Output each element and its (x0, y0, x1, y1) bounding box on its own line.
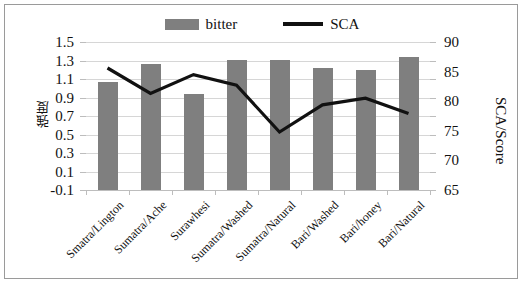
legend-item-bitter: bitter (165, 17, 238, 32)
y-axis-right-title: SCA/Score (492, 97, 509, 165)
x-axis-tickmarks (86, 190, 430, 191)
y-axis-right-tick-label: 65 (444, 183, 459, 198)
y-axis-left-tick-label: 0.3 (55, 146, 74, 161)
legend-label-bitter: bitter (206, 17, 238, 32)
y-axis-right-tickmark (430, 61, 436, 62)
y-axis-left-tick-label: -0.1 (50, 183, 74, 198)
chart-frame: bitter SCA 強度 SCA/Score 1.51.31.10.90.70… (4, 4, 518, 279)
y-axis-left-title: 強度 (33, 100, 52, 128)
y-axis-right-tick-label: 80 (444, 94, 459, 109)
y-axis-right-tickmark (430, 135, 436, 136)
chart-legend: bitter SCA (5, 13, 519, 35)
y-axis-left-tick-label: 0.7 (55, 109, 74, 124)
y-axis-left-tick-label: 0.9 (55, 90, 74, 105)
legend-item-sca: SCA (283, 17, 359, 32)
line-series-sca (86, 42, 430, 190)
y-axis-right-tick-label: 75 (444, 123, 459, 138)
y-axis-left-tick-label: 0.5 (55, 127, 74, 142)
y-axis-right-tick-label: 90 (444, 35, 459, 50)
y-axis-right-tick-label: 85 (444, 64, 459, 79)
plot-area (86, 42, 430, 190)
y-axis-right-tickmark (430, 42, 436, 43)
y-axis-left-tick-label: 1.5 (55, 35, 74, 50)
y-axis-right-tickmark (430, 172, 436, 173)
y-axis-left-tick-label: 1.3 (55, 53, 74, 68)
x-axis-tickmark (430, 190, 431, 195)
y-axis-left-tick-label: 0.1 (55, 164, 74, 179)
y-axis-right-tick-label: 70 (444, 153, 459, 168)
x-axis-label: Smatra/Lington (35, 199, 126, 287)
x-axis-line (86, 190, 430, 191)
y-axis-right-tickmark (430, 153, 436, 154)
legend-bar-swatch-icon (165, 19, 199, 30)
y-axis-right-tickmark (430, 79, 436, 80)
y-axis-right-tickmark (430, 98, 436, 99)
legend-label-sca: SCA (330, 17, 359, 32)
y-axis-left-tick-label: 1.1 (55, 72, 74, 87)
y-axis-right-tickmark (430, 116, 436, 117)
legend-line-swatch-icon (283, 22, 323, 26)
